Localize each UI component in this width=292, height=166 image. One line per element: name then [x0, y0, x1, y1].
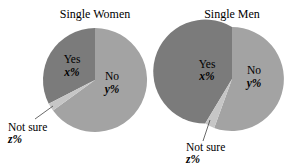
women-yes-value: x%: [63, 66, 79, 78]
men-no-label: No: [247, 64, 261, 76]
pie-charts: Single Women Yes x% No y% Not sure z% Si…: [0, 0, 292, 166]
men-yes-value: x%: [198, 70, 214, 82]
men-yes-label: Yes: [199, 58, 216, 70]
women-notsure-label: Not sure: [8, 121, 47, 133]
women-no-value: y%: [103, 83, 120, 96]
men-pie: [153, 20, 284, 141]
women-notsure-value: z%: [7, 133, 22, 145]
women-pie: [35, 28, 147, 132]
men-notsure-value: z%: [185, 153, 200, 165]
men-no-value: y%: [245, 77, 262, 90]
women-yes-label: Yes: [64, 53, 81, 65]
women-no-label: No: [105, 70, 119, 82]
men-chart-title: Single Men: [204, 7, 260, 21]
women-chart-title: Single Women: [60, 7, 130, 21]
men-notsure-label: Not sure: [186, 141, 225, 153]
women-notsure-leader-line: [35, 106, 53, 119]
